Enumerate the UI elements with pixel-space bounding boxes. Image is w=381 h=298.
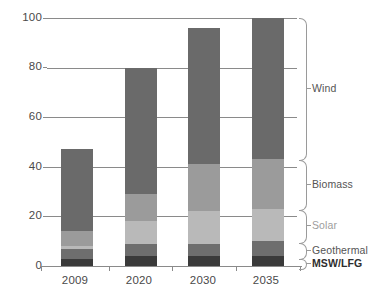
y-tick-label: 40 — [8, 161, 42, 173]
bar-segment-geothermal — [252, 241, 284, 256]
x-tickmark — [236, 266, 237, 271]
legend-bracket-nub — [306, 225, 311, 226]
y-axis: 100 80 60 40 20 0 — [0, 0, 42, 298]
bar-segment-geothermal — [61, 249, 93, 259]
bar-2030 — [188, 18, 220, 266]
bar-segment-msw-lfg — [125, 256, 157, 266]
bar-segment-biomass — [188, 164, 220, 211]
x-tickmark — [300, 266, 301, 271]
bar-2035 — [252, 18, 284, 266]
bar-segment-solar — [61, 246, 93, 248]
legend-label-wind: Wind — [312, 83, 336, 94]
bar-segment-biomass — [125, 194, 157, 221]
legend-bracket-geothermal — [299, 243, 307, 260]
legend-bracket-solar — [299, 210, 307, 244]
bar-segment-biomass — [61, 231, 93, 246]
legend-bracket-nub — [306, 250, 311, 251]
x-tick-label-2020: 2020 — [111, 274, 167, 286]
y-tick-label: 0 — [8, 260, 42, 272]
bar-segment-wind — [252, 18, 284, 159]
bar-segment-geothermal — [188, 244, 220, 256]
bar-segment-msw-lfg — [252, 256, 284, 266]
legend-bracket-wind — [299, 18, 307, 161]
x-tickmark — [41, 266, 42, 271]
bar-segment-wind — [125, 68, 157, 194]
x-tick-label-2030: 2030 — [175, 274, 231, 286]
y-tick-label: 80 — [8, 61, 42, 73]
legend-label-geothermal: Geothermal — [312, 245, 368, 256]
bar-segment-solar — [252, 209, 284, 241]
bar-segment-geothermal — [125, 244, 157, 256]
stacked-bar-chart: 100 80 60 40 20 0 2009 2020 2030 2035 Wi… — [0, 0, 381, 298]
bar-segment-solar — [188, 211, 220, 243]
legend-bracket-nub — [306, 263, 311, 264]
x-tick-label-2009: 2009 — [47, 274, 103, 286]
bar-segment-biomass — [252, 159, 284, 209]
legend-bracket-nub — [306, 184, 311, 185]
bar-segment-msw-lfg — [61, 259, 93, 266]
bar-segment-wind — [188, 28, 220, 164]
legend-label-solar: Solar — [312, 220, 337, 231]
plot-area — [47, 18, 297, 266]
bar-2020 — [125, 18, 157, 266]
bar-segment-msw-lfg — [188, 256, 220, 266]
bar-segment-wind — [61, 149, 93, 231]
x-tick-label-2035: 2035 — [238, 274, 294, 286]
bar-segment-solar — [125, 221, 157, 243]
bar-2009 — [61, 18, 93, 266]
x-tickmark — [172, 266, 173, 271]
x-axis-line — [40, 266, 302, 267]
legend-label-biomass: Biomass — [312, 179, 353, 190]
legend-bracket-nub — [306, 88, 311, 89]
y-tick-label: 20 — [8, 210, 42, 222]
y-tick-label: 100 — [8, 12, 42, 24]
y-tick-label: 60 — [8, 111, 42, 123]
x-tickmark — [109, 266, 110, 271]
legend-bracket-biomass — [299, 160, 307, 211]
legend-label-mswlfg: MSW/LFG — [312, 258, 362, 269]
